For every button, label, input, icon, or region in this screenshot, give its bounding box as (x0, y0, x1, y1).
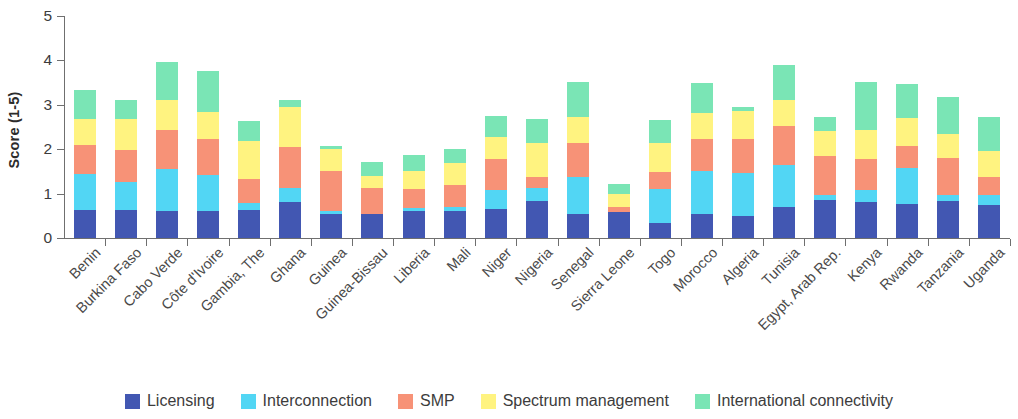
legend-item[interactable]: Licensing (125, 392, 215, 410)
legend-label: International connectivity (717, 392, 893, 410)
stacked-bar[interactable] (855, 82, 877, 238)
x-tick-label: Liberia (391, 245, 432, 286)
bar-segment (485, 190, 507, 209)
bar-segment (197, 112, 219, 140)
bar-segment (937, 97, 959, 134)
bar-segment (567, 82, 589, 117)
bar-segment (238, 203, 260, 211)
stacked-bar[interactable] (691, 83, 713, 238)
bar-segment (74, 174, 96, 210)
bar-segment (279, 188, 301, 201)
bar-segment (238, 121, 260, 141)
bar-segment (156, 100, 178, 130)
bar-segment (567, 177, 589, 213)
stacked-bar[interactable] (115, 100, 137, 238)
stacked-bar[interactable] (197, 71, 219, 238)
bar-segment (115, 210, 137, 238)
bar-segment (691, 83, 713, 113)
bar-segment (526, 188, 548, 200)
bar-segment (197, 139, 219, 175)
legend-swatch-icon (241, 394, 256, 409)
stacked-bar[interactable] (238, 121, 260, 238)
bar-segment (526, 143, 548, 177)
bar-segment (978, 117, 1000, 151)
stacked-bar[interactable] (937, 97, 959, 238)
bar-segment (444, 163, 466, 184)
legend-item[interactable]: Spectrum management (481, 392, 669, 410)
bar-segment (526, 201, 548, 238)
stacked-bar[interactable] (74, 90, 96, 238)
x-tick-label: Niger (479, 245, 514, 280)
bar-segment (814, 200, 836, 238)
bar-segment (156, 130, 178, 169)
stacked-bar[interactable] (320, 146, 342, 238)
bar-segment (361, 188, 383, 214)
stacked-bar[interactable] (444, 149, 466, 238)
bar-segment (197, 71, 219, 112)
bar-segment (279, 147, 301, 189)
bar-segment (855, 130, 877, 159)
y-tick-label: 2 (26, 141, 52, 157)
legend-label: SMP (420, 392, 455, 410)
y-tick-label: 5 (26, 8, 52, 24)
legend-item[interactable]: International connectivity (695, 392, 893, 410)
bar-segment (649, 143, 671, 172)
bar-segment (937, 158, 959, 195)
bar-segment (238, 210, 260, 238)
stacked-bar[interactable] (978, 117, 1000, 238)
stacked-bar[interactable] (485, 116, 507, 238)
bar-segment (279, 100, 301, 107)
bar-segment (691, 214, 713, 238)
bar-segment (444, 211, 466, 238)
bar-segment (115, 100, 137, 119)
legend-swatch-icon (125, 394, 140, 409)
bar-segment (855, 159, 877, 190)
stacked-bar[interactable] (896, 84, 918, 238)
legend-item[interactable]: SMP (398, 392, 455, 410)
stacked-bar[interactable] (156, 62, 178, 238)
y-tick-label: 3 (26, 97, 52, 113)
bar-segment (238, 141, 260, 179)
legend-item[interactable]: Interconnection (241, 392, 372, 410)
bar-segment (691, 171, 713, 215)
stacked-bar[interactable] (814, 117, 836, 238)
bar-segment (485, 116, 507, 136)
bar-segment (567, 143, 589, 178)
bar-segment (74, 119, 96, 145)
bar-segment (115, 119, 137, 150)
stacked-bar[interactable] (279, 100, 301, 239)
stacked-bar[interactable] (773, 65, 795, 238)
y-tick-label: 4 (26, 52, 52, 68)
y-tick (57, 238, 64, 239)
bar-segment (361, 162, 383, 176)
bar-segment (978, 177, 1000, 196)
stacked-bar[interactable] (567, 82, 589, 238)
bar-segment (238, 179, 260, 202)
legend-swatch-icon (695, 394, 710, 409)
y-tick (57, 105, 64, 106)
chart-figure: Score (1-5) 012345 BeninBurkina FasoCabo… (0, 0, 1018, 419)
stacked-bar[interactable] (732, 107, 754, 238)
bar-segment (403, 171, 425, 190)
stacked-bar[interactable] (403, 155, 425, 238)
bar-segment (279, 107, 301, 147)
x-tick-label: Algeria (719, 245, 761, 287)
legend-swatch-icon (398, 394, 413, 409)
bar-segment (732, 216, 754, 238)
x-tick-label: Mali (444, 245, 473, 274)
x-tick-label: Benin (67, 245, 103, 281)
stacked-bar[interactable] (649, 120, 671, 238)
stacked-bar[interactable] (608, 184, 630, 238)
bar-segment (444, 149, 466, 163)
bar-segment (773, 207, 795, 238)
bar-segment (74, 210, 96, 238)
y-tick-label: 1 (26, 186, 52, 202)
stacked-bar[interactable] (361, 162, 383, 238)
bar-segment (197, 211, 219, 238)
bar-segment (526, 119, 548, 143)
stacked-bar[interactable] (526, 119, 548, 238)
bar-segment (361, 176, 383, 188)
bar-segment (320, 171, 342, 211)
bar-segment (896, 146, 918, 168)
bar-segment (485, 137, 507, 159)
